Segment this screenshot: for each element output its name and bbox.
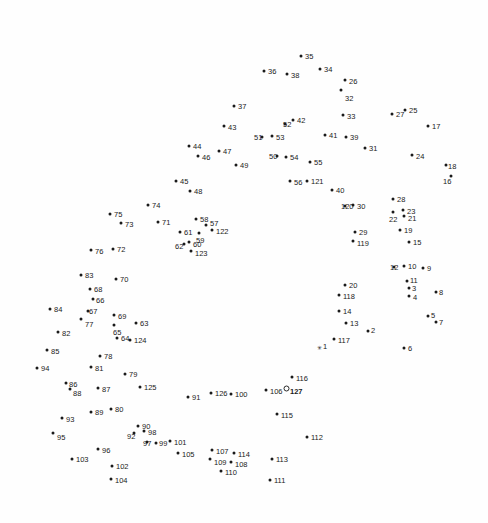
dot-58[interactable] [195, 218, 198, 221]
dot-13[interactable] [345, 322, 348, 325]
dot-81[interactable] [90, 366, 93, 369]
dot-19[interactable] [399, 229, 402, 232]
dot-36[interactable] [263, 70, 266, 73]
dot-124[interactable] [129, 339, 132, 342]
dot-5[interactable] [427, 315, 430, 318]
dot-72[interactable] [112, 248, 115, 251]
dot-83[interactable] [80, 274, 83, 277]
dot-10[interactable] [403, 265, 406, 268]
dot-61[interactable] [179, 231, 182, 234]
dot-80[interactable] [110, 408, 113, 411]
dot-31[interactable] [364, 147, 367, 150]
dot-68[interactable] [89, 288, 92, 291]
dot-33[interactable] [342, 114, 345, 117]
dot-4[interactable] [408, 295, 411, 298]
dot-66[interactable] [92, 298, 95, 301]
dot-96[interactable] [97, 448, 100, 451]
dot-105[interactable] [177, 452, 180, 455]
dot-87[interactable] [97, 387, 100, 390]
dot-38[interactable] [286, 73, 289, 76]
dot-23[interactable] [402, 209, 405, 212]
dot-14[interactable] [338, 310, 341, 313]
dot-39[interactable] [345, 136, 348, 139]
dot-84[interactable] [49, 308, 52, 311]
dot-3[interactable] [408, 287, 411, 290]
dot-27[interactable] [391, 113, 394, 116]
dot-101[interactable] [169, 440, 172, 443]
dot-82[interactable] [57, 331, 60, 334]
dot-126[interactable] [210, 392, 213, 395]
dot-56[interactable] [289, 180, 292, 183]
dot-15[interactable] [408, 241, 411, 244]
dot-102[interactable] [111, 465, 114, 468]
dot-110[interactable] [220, 470, 223, 473]
dot-34[interactable] [319, 68, 322, 71]
dot-53[interactable] [271, 135, 274, 138]
dot-122[interactable] [211, 229, 214, 232]
dot-103[interactable] [71, 458, 74, 461]
dot-70[interactable] [115, 278, 118, 281]
dot-9[interactable] [422, 267, 425, 270]
dot-40[interactable] [331, 189, 334, 192]
dot-112[interactable] [306, 436, 309, 439]
dot-60[interactable] [188, 241, 191, 244]
dot-76[interactable] [90, 249, 93, 252]
dot-90[interactable] [137, 425, 140, 428]
dot-43[interactable] [223, 125, 226, 128]
dot-107[interactable] [211, 449, 214, 452]
dot-20[interactable] [344, 284, 347, 287]
dot-117[interactable] [333, 338, 336, 341]
dot-94[interactable] [36, 367, 39, 370]
dot-6[interactable] [403, 347, 406, 350]
dot-111[interactable] [269, 479, 272, 482]
dot-100[interactable] [230, 393, 233, 396]
dot-99[interactable] [155, 442, 158, 445]
dot-108[interactable] [230, 461, 233, 464]
dot-24[interactable] [411, 154, 414, 157]
dot-7[interactable] [435, 321, 438, 324]
dot-46[interactable] [197, 155, 200, 158]
dot-54[interactable] [285, 156, 288, 159]
dot-1[interactable] [317, 345, 322, 350]
dot-69[interactable] [113, 314, 116, 317]
dot-95[interactable] [52, 432, 55, 435]
dot-48[interactable] [189, 190, 192, 193]
dot-116[interactable] [291, 376, 294, 379]
dot-26[interactable] [344, 79, 347, 82]
dot-127[interactable] [284, 386, 290, 392]
dot-93[interactable] [61, 417, 64, 420]
dot-98[interactable] [143, 430, 146, 433]
dot-75[interactable] [109, 213, 112, 216]
dot-28[interactable] [392, 198, 395, 201]
dot-29[interactable] [354, 231, 357, 234]
dot-77[interactable] [80, 318, 83, 321]
dot-73[interactable] [120, 222, 123, 225]
dot-113[interactable] [271, 458, 274, 461]
dot-37[interactable] [233, 105, 236, 108]
dot-35[interactable] [300, 55, 303, 58]
dot-106[interactable] [265, 389, 268, 392]
dot-11[interactable] [406, 280, 409, 283]
dot-74[interactable] [147, 204, 150, 207]
dot-63[interactable] [135, 322, 138, 325]
dot-115[interactable] [276, 413, 279, 416]
dot-109[interactable] [209, 458, 212, 461]
dot-88[interactable] [69, 388, 72, 391]
dot-49[interactable] [235, 164, 238, 167]
dot-114[interactable] [233, 452, 236, 455]
dot-71[interactable] [157, 221, 160, 224]
dot-119[interactable] [352, 240, 355, 243]
dot-65[interactable] [113, 324, 116, 327]
dot-59[interactable] [198, 232, 201, 235]
dot-2[interactable] [367, 330, 370, 333]
dot-55[interactable] [309, 161, 312, 164]
dot-123[interactable] [190, 250, 193, 253]
dot-32[interactable] [340, 89, 343, 92]
dot-104[interactable] [110, 478, 113, 481]
dot-91[interactable] [187, 396, 190, 399]
dot-47[interactable] [218, 150, 221, 153]
dot-89[interactable] [90, 411, 93, 414]
dot-44[interactable] [188, 145, 191, 148]
dot-86[interactable] [65, 382, 68, 385]
dot-79[interactable] [124, 373, 127, 376]
